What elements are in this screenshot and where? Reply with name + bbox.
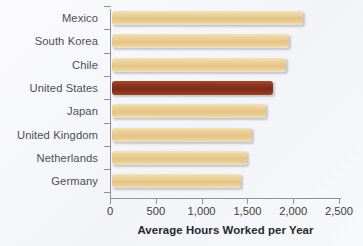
y-axis-tick [104, 29, 111, 30]
y-axis-tick [104, 192, 111, 193]
bar [112, 174, 241, 188]
y-axis-tick-label: United Kingdom [17, 128, 98, 142]
y-axis-tick [104, 53, 111, 54]
y-axis-tick [104, 146, 111, 147]
x-axis-tick-label: 500 [146, 205, 165, 217]
y-axis-tick [104, 76, 111, 77]
bar-chart: MexicoSouth KoreaChileUnited StatesJapan… [0, 0, 363, 246]
bar [112, 128, 252, 142]
x-axis-tick-label: 0 [107, 205, 113, 217]
x-axis-tick-label: 1,500 [233, 205, 261, 217]
y-axis-tick-label: Chile [72, 58, 98, 72]
y-axis-tick [104, 123, 111, 124]
y-axis-category-labels: MexicoSouth KoreaChileUnited StatesJapan… [0, 0, 104, 197]
y-axis-tick [104, 99, 111, 100]
x-axis-line [110, 198, 341, 199]
x-axis-title: Average Hours Worked per Year [110, 224, 341, 236]
y-axis-tick-label: Germany [51, 174, 98, 188]
bar [112, 11, 303, 25]
x-axis-tick [110, 198, 111, 204]
x-axis-tick-label: 1,000 [188, 205, 216, 217]
y-axis-tick [104, 6, 111, 7]
x-axis-tick-label: 2,500 [325, 205, 353, 217]
y-axis-tick-label: Japan [67, 104, 98, 118]
x-axis-tick [339, 198, 340, 204]
bar [112, 104, 266, 118]
y-axis-tick-label: South Korea [35, 34, 98, 48]
x-axis-tick [293, 198, 294, 204]
x-axis-tick-label: 2,000 [279, 205, 307, 217]
plot-area [110, 0, 341, 198]
y-axis-tick [104, 169, 111, 170]
y-axis-tick-label: United States [30, 81, 98, 95]
bar [112, 58, 286, 72]
y-axis-tick-label: Mexico [62, 11, 98, 25]
x-axis-tick [156, 198, 157, 204]
bar [112, 151, 247, 165]
y-axis-tick-label: Netherlands [37, 151, 98, 165]
bar [112, 81, 273, 95]
x-axis-tick [202, 198, 203, 204]
bar [112, 34, 289, 48]
x-axis-tick [247, 198, 248, 204]
